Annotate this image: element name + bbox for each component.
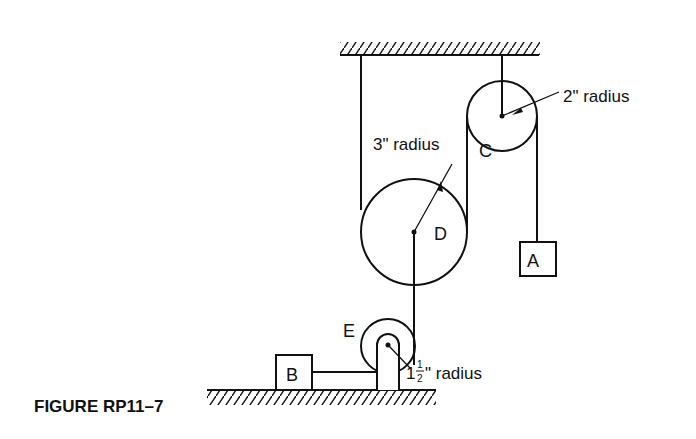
pulley-c-label: C <box>479 141 492 161</box>
radius-e-whole: 1 <box>406 364 415 383</box>
pulley-e-label: E <box>343 321 355 341</box>
block-b-label: B <box>286 365 298 385</box>
radius-d-label: 3" radius <box>373 135 440 154</box>
radius-d-arrow <box>414 164 452 232</box>
figure-caption: FIGURE RP11–7 <box>34 397 163 416</box>
ceiling-support <box>340 42 540 55</box>
pulley-e-bracket <box>377 334 399 390</box>
pulley-d-label: D <box>434 224 447 244</box>
radius-e-suffix: " radius <box>425 364 482 383</box>
radius-e-numerator: 1 <box>417 359 423 370</box>
pulley-system-diagram: 2" radius 3" radius C D A E B 1 1 2 " ra… <box>0 0 696 439</box>
block-a-label: A <box>527 251 539 271</box>
ground-floor <box>207 390 436 405</box>
radius-e-denominator: 2 <box>417 373 423 384</box>
radius-c-label: 2" radius <box>563 87 630 106</box>
